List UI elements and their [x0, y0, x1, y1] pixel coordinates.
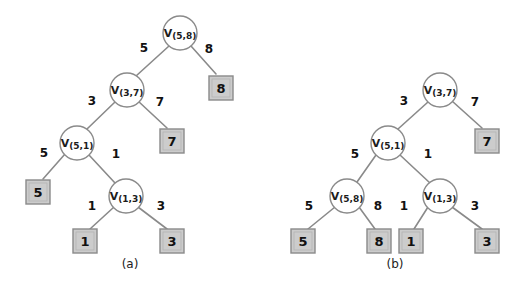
- leaf-node[interactable]: 1: [73, 229, 97, 253]
- leaf-value-label: 5: [33, 185, 42, 200]
- edge-weight-label: 8: [374, 199, 382, 213]
- leaf-value-label: 3: [482, 234, 491, 249]
- internal-node[interactable]: V(1,3): [423, 179, 457, 213]
- leaf-value-label: 1: [80, 234, 89, 249]
- leaf-value-label: 7: [167, 134, 176, 149]
- leaf-node[interactable]: 3: [160, 229, 184, 253]
- node-label-subscript: (3,7): [119, 88, 143, 98]
- edge-weight-label: 1: [400, 199, 408, 213]
- node-label-subscript: (5,8): [172, 31, 196, 41]
- edge-weight-label: 5: [351, 147, 359, 161]
- leaf-node[interactable]: 5: [291, 229, 315, 253]
- internal-node[interactable]: V(3,7): [110, 73, 144, 107]
- leaf-node[interactable]: 5: [26, 180, 50, 204]
- leaf-node[interactable]: 8: [367, 229, 391, 253]
- internal-node[interactable]: V(5,1): [371, 126, 405, 160]
- internal-node[interactable]: V(1,3): [109, 179, 143, 213]
- edge-weight-label: 8: [205, 42, 213, 56]
- internal-node[interactable]: V(5,8): [330, 179, 364, 213]
- edge-weight-label: 1: [424, 147, 432, 161]
- tree-diagram-svg: 5837511387513V(5,8)V(3,7)V(5,1)V(1,3)(a)…: [0, 0, 524, 288]
- tree-edge: [414, 207, 428, 229]
- leaf-value-label: 3: [167, 234, 176, 249]
- edge-weight-label: 1: [112, 147, 120, 161]
- node-label-subscript: (3,7): [432, 88, 456, 98]
- leaf-value-label: 5: [298, 234, 307, 249]
- leaf-value-label: 1: [406, 234, 415, 249]
- internal-node[interactable]: V(3,7): [423, 73, 457, 107]
- node-label-subscript: (5,1): [380, 141, 404, 151]
- panel-caption: (a): [122, 257, 139, 271]
- edge-weight-label: 5: [305, 199, 313, 213]
- internal-node[interactable]: V(5,1): [60, 126, 94, 160]
- leaf-node[interactable]: 7: [475, 129, 499, 153]
- edge-weight-label: 3: [400, 94, 408, 108]
- edge-weight-label: 5: [40, 146, 48, 160]
- edge-weight-label: 3: [157, 199, 165, 213]
- edge-weight-label: 3: [471, 199, 479, 213]
- node-label-subscript: (5,1): [69, 141, 93, 151]
- leaf-node[interactable]: 7: [160, 129, 184, 153]
- figure-container: 5837511387513V(5,8)V(3,7)V(5,1)V(1,3)(a)…: [0, 0, 524, 288]
- tree-edge: [359, 207, 375, 229]
- leaf-node[interactable]: 3: [475, 229, 499, 253]
- leaf-node[interactable]: 8: [209, 76, 233, 100]
- tree-edge: [357, 155, 376, 182]
- leaf-value-label: 7: [482, 134, 491, 149]
- edge-weight-label: 1: [88, 199, 96, 213]
- leaf-value-label: 8: [374, 234, 383, 249]
- node-label-subscript: (1,3): [118, 194, 142, 204]
- panel-b-internal-nodes: V(3,7)V(5,1)V(5,8)V(1,3): [330, 73, 457, 213]
- edge-weight-label: 3: [88, 94, 96, 108]
- edge-weight-label: 7: [156, 95, 164, 109]
- edge-weight-label: 5: [140, 41, 148, 55]
- panel-b-edges: 37515813: [305, 94, 482, 229]
- panel-a: 5837511387513V(5,8)V(3,7)V(5,1)V(1,3)(a): [26, 16, 233, 271]
- panels-group: 5837511387513V(5,8)V(3,7)V(5,1)V(1,3)(a)…: [26, 16, 499, 271]
- node-label-subscript: (1,3): [432, 194, 456, 204]
- edge-weight-label: 7: [471, 95, 479, 109]
- internal-node[interactable]: V(5,8): [163, 16, 197, 50]
- panel-b: 3751581375813V(3,7)V(5,1)V(5,8)V(1,3)(b): [291, 73, 499, 271]
- panel-caption: (b): [387, 257, 404, 271]
- leaf-value-label: 8: [216, 81, 225, 96]
- panel-a-internal-nodes: V(5,8)V(3,7)V(5,1)V(1,3): [60, 16, 197, 213]
- leaf-node[interactable]: 1: [399, 229, 423, 253]
- node-label-subscript: (5,8): [339, 194, 363, 204]
